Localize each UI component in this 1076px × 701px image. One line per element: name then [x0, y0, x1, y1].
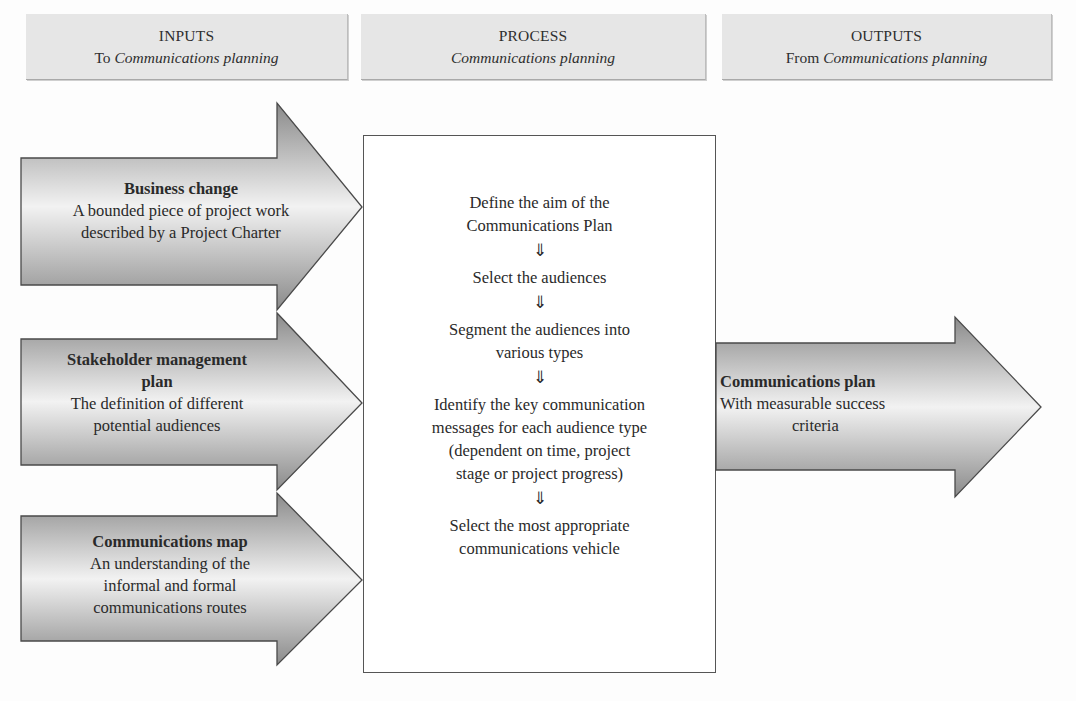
- process-step-line: Select the audiences: [363, 266, 716, 289]
- input-communications-map-line: communications routes: [0, 597, 340, 619]
- input-business-change-line: described by a Project Charter: [0, 222, 362, 244]
- process-steps: Define the aim of the Communications Pla…: [363, 191, 716, 560]
- input-stakeholder-plan-title: Stakeholder management: [0, 349, 314, 371]
- input-communications-map: Communications map An understanding of t…: [0, 531, 340, 619]
- process-step-line: messages for each audience type: [363, 416, 716, 439]
- process-step: Define the aim of the Communications Pla…: [363, 191, 716, 237]
- input-business-change-title: Business change: [0, 178, 362, 200]
- process-step-line: Identify the key communication: [363, 393, 716, 416]
- input-stakeholder-plan-line: potential audiences: [0, 415, 314, 437]
- process-step: Segment the audiences into various types: [363, 318, 716, 364]
- process-step-line: Segment the audiences into: [363, 318, 716, 341]
- process-step-line: stage or project progress): [363, 462, 716, 485]
- input-stakeholder-plan: Stakeholder management plan The definiti…: [0, 349, 314, 437]
- input-communications-map-line: An understanding of the: [0, 553, 340, 575]
- process-step: Select the audiences: [363, 266, 716, 289]
- down-double-arrow-icon: ⇓: [363, 365, 716, 391]
- process-step-line: (dependent on time, project: [363, 439, 716, 462]
- output-communications-plan: Communications plan With measurable succ…: [720, 371, 952, 437]
- input-stakeholder-plan-line: The definition of different: [0, 393, 314, 415]
- output-communications-plan-line: criteria: [720, 415, 952, 437]
- input-business-change-line: A bounded piece of project work: [0, 200, 362, 222]
- input-communications-map-title: Communications map: [0, 531, 340, 553]
- process-step-line: communications vehicle: [363, 537, 716, 560]
- input-business-change: Business change A bounded piece of proje…: [0, 178, 362, 244]
- process-step-line: Define the aim of the: [363, 191, 716, 214]
- process-step: Select the most appropriate communicatio…: [363, 514, 716, 560]
- output-communications-plan-line: With measurable success: [720, 393, 952, 415]
- down-double-arrow-icon: ⇓: [363, 486, 716, 512]
- input-stakeholder-plan-title: plan: [0, 371, 314, 393]
- process-step-line: Communications Plan: [363, 214, 716, 237]
- down-double-arrow-icon: ⇓: [363, 238, 716, 264]
- process-step: Identify the key communication messages …: [363, 393, 716, 485]
- process-step-line: Select the most appropriate: [363, 514, 716, 537]
- input-communications-map-line: informal and formal: [0, 575, 340, 597]
- down-double-arrow-icon: ⇓: [363, 290, 716, 316]
- process-step-line: various types: [363, 341, 716, 364]
- output-communications-plan-title: Communications plan: [720, 371, 952, 393]
